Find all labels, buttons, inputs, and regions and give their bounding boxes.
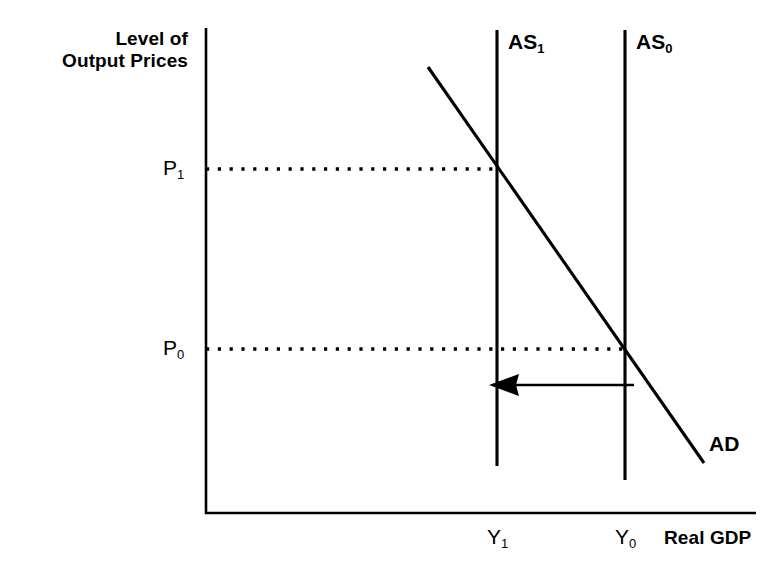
shift-arrow [489,374,634,396]
shift-arrow-head [489,374,519,396]
curve-label-as1-base: AS [508,30,537,53]
aggregate-supply-demand-figure: Aggregate Supply and Aggregate Demand [0,0,783,581]
price-tick-label-p1: P1 [163,156,184,181]
curve-label-as1-sub: 1 [537,41,544,56]
ad-curve [428,67,704,463]
axis-lines [205,28,756,514]
curve-label-as0-base: AS [636,30,665,53]
supply-curves [497,30,625,480]
output-tick-label-y0: Y0 [615,525,636,550]
price-tick-label-p0-base: P [163,336,177,359]
output-tick-label-y0-sub: 0 [629,536,636,551]
x-axis-title: Real GDP [664,527,751,549]
output-tick-label-y1: Y1 [487,525,508,550]
demand-curve [428,67,704,463]
price-tick-label-p1-sub: 1 [177,167,184,182]
chart-canvas [0,0,783,581]
y-axis-title-line1: Level of [115,28,188,49]
output-tick-label-y0-base: Y [615,525,629,548]
price-tick-label-p1-base: P [163,156,177,179]
curve-label-as0-sub: 0 [665,41,672,56]
curve-label-as1: AS1 [508,30,544,55]
y-axis-title: Level of Output Prices [10,28,188,73]
price-tick-label-p0-sub: 0 [177,347,184,362]
price-tick-label-p0: P0 [163,336,184,361]
y-axis-title-line2: Output Prices [62,50,188,71]
curve-label-ad: AD [709,432,739,457]
output-tick-label-y1-sub: 1 [501,536,508,551]
curve-label-as0: AS0 [636,30,672,55]
output-tick-label-y1-base: Y [487,525,501,548]
